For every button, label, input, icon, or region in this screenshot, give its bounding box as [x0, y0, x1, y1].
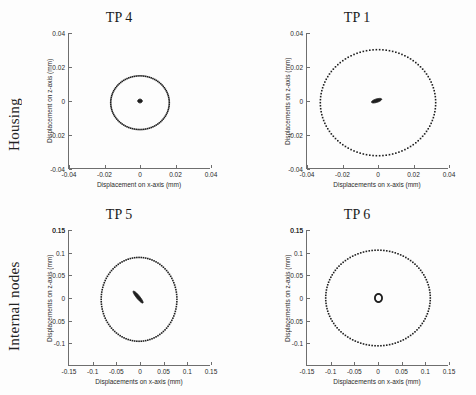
y-tick-label: 0	[61, 98, 65, 105]
y-tick-label: 0.1	[294, 249, 303, 256]
plot-area-tp5: -0.1-0.0500.050.10.150.15-0.1-0.0500.050…	[68, 230, 210, 366]
y-tick-label: -0.1	[54, 340, 65, 347]
y-tick-mark	[307, 101, 310, 102]
x-tick-label: -0.04	[300, 171, 315, 178]
x-tick-mark	[449, 165, 450, 168]
x-tick-label: 0	[376, 368, 380, 375]
x-tick-label: 0	[138, 171, 142, 178]
y-tick-mark	[307, 67, 310, 68]
y-tick-mark	[307, 33, 310, 34]
y-tick-label: 0.02	[52, 64, 65, 71]
x-tick-mark	[140, 362, 141, 365]
y-tick-label: -0.05	[50, 317, 65, 324]
x-tick-mark	[93, 362, 94, 365]
chart-title-tp6: TP 6	[238, 207, 476, 223]
y-tick-label: 0.04	[290, 30, 303, 37]
x-tick-label: 0.02	[169, 171, 182, 178]
x-tick-label: -0.05	[347, 368, 362, 375]
plot-area-tp1: -0.04-0.0200.020.04-0.04-0.0200.020.04	[306, 33, 448, 169]
series-inner-orbit	[133, 291, 143, 303]
y-tick-mark	[69, 230, 72, 231]
y-tick-label: 0	[299, 295, 303, 302]
y-tick-mark	[69, 33, 72, 34]
y-tick-mark	[307, 169, 310, 170]
x-tick-mark	[176, 165, 177, 168]
y-tick-label: -0.02	[50, 132, 65, 139]
x-tick-label: 0.15	[443, 368, 456, 375]
plot-svg-tp1	[307, 33, 449, 169]
x-tick-label: 0.04	[443, 171, 456, 178]
chart-title-tp4: TP 4	[0, 10, 238, 26]
x-tick-label: 0.1	[421, 368, 430, 375]
x-axis-label-tp4: Displacement on x-axis (mm)	[68, 181, 210, 188]
y-tick-mark	[69, 343, 72, 344]
y-tick-label: 0	[299, 98, 303, 105]
y-tick-mark	[69, 67, 72, 68]
y-tick-mark	[69, 275, 72, 276]
y-tick-mark	[307, 135, 310, 136]
x-tick-mark	[378, 165, 379, 168]
y-axis-label-tp5: Displacements on z-axis (mm)	[44, 230, 54, 366]
plot-svg-tp6	[307, 230, 449, 366]
y-tick-mark	[307, 321, 310, 322]
x-tick-mark	[343, 165, 344, 168]
y-tick-label: 0.1	[56, 249, 65, 256]
y-tick-label: 0.02	[290, 64, 303, 71]
x-tick-mark	[449, 362, 450, 365]
x-tick-label: 0.1	[183, 368, 192, 375]
y-axis-label-tp1: Displacements on z-axis (mm)	[282, 33, 292, 169]
y-tick-label: -0.05	[288, 317, 303, 324]
y-tick-mark	[307, 230, 310, 231]
plot-svg-tp4	[69, 33, 211, 169]
y-tick-mark	[307, 298, 310, 299]
y-tick-mark	[69, 298, 72, 299]
x-tick-label: -0.1	[325, 368, 336, 375]
figure-panel-grid: Housing Internal nodes TP 4 Displacement…	[0, 0, 476, 395]
x-tick-label: 0.05	[395, 368, 408, 375]
x-tick-label: -0.15	[62, 368, 77, 375]
x-tick-label: 0.04	[205, 171, 218, 178]
x-tick-mark	[140, 165, 141, 168]
y-tick-mark	[69, 169, 72, 170]
x-tick-mark	[164, 362, 165, 365]
plot-svg-tp5	[69, 230, 211, 366]
x-tick-label: 0.05	[157, 368, 170, 375]
x-axis-label-tp1: Displacements on x-axis (mm)	[306, 181, 448, 188]
x-tick-mark	[354, 362, 355, 365]
y-axis-label-tp6: Displacements on z-axis (mm)	[282, 230, 292, 366]
y-tick-mark	[69, 321, 72, 322]
x-tick-mark	[425, 362, 426, 365]
y-tick-label: -0.02	[288, 132, 303, 139]
y-tick-mark	[69, 135, 72, 136]
y-tick-label-top: 0.15	[52, 227, 65, 234]
x-tick-mark	[116, 362, 117, 365]
x-tick-mark	[69, 165, 70, 168]
chart-title-tp5: TP 5	[0, 207, 238, 223]
y-tick-label: 0.05	[52, 272, 65, 279]
x-tick-label: -0.05	[109, 368, 124, 375]
x-tick-mark	[402, 362, 403, 365]
chart-title-tp1: TP 1	[238, 10, 476, 26]
x-tick-mark	[378, 362, 379, 365]
y-tick-mark	[307, 275, 310, 276]
series-inner-orbit	[374, 293, 383, 303]
y-tick-label: 0.05	[290, 272, 303, 279]
x-tick-mark	[187, 362, 188, 365]
series-outer-orbit	[325, 249, 431, 346]
chart-panel-tp6: TP 6 Displacements on z-axis (mm) -0.1-0…	[238, 197, 476, 394]
series-inner-orbit	[138, 99, 143, 103]
x-tick-label: -0.1	[87, 368, 98, 375]
y-tick-mark	[307, 253, 310, 254]
y-tick-mark	[307, 343, 310, 344]
series-outer-orbit	[320, 49, 437, 157]
x-tick-mark	[414, 165, 415, 168]
y-tick-label: 0.04	[52, 30, 65, 37]
y-tick-mark	[69, 253, 72, 254]
x-tick-mark	[211, 362, 212, 365]
y-tick-label: -0.1	[292, 340, 303, 347]
x-tick-label: 0.15	[205, 368, 218, 375]
y-tick-mark	[69, 101, 72, 102]
x-tick-label: -0.15	[300, 368, 315, 375]
y-tick-label: 0	[61, 295, 65, 302]
x-axis-label-tp6: Displacements on x-axis (mm)	[306, 378, 448, 385]
